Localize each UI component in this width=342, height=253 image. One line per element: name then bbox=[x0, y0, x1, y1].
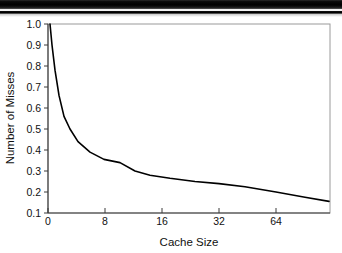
y-axis-ticks: 0.10.20.30.40.50.60.70.80.91.0 bbox=[26, 18, 48, 219]
line-chart: 0.10.20.30.40.50.60.70.80.91.0 08163264 … bbox=[0, 0, 342, 253]
y-axis-title: Number of Misses bbox=[4, 71, 16, 164]
y-tick-label: 0.9 bbox=[26, 39, 41, 51]
x-axis-title: Cache Size bbox=[160, 236, 219, 248]
plot-border bbox=[48, 24, 330, 213]
y-tick-label: 0.3 bbox=[26, 165, 41, 177]
y-tick-label: 1.0 bbox=[26, 18, 41, 30]
y-tick-label: 0.7 bbox=[26, 81, 41, 93]
data-series-miss-ratio bbox=[50, 24, 329, 201]
x-tick-label: 64 bbox=[270, 215, 282, 227]
plot-frame bbox=[48, 24, 330, 213]
x-tick-label: 8 bbox=[102, 215, 108, 227]
y-tick-label: 0.4 bbox=[26, 144, 41, 156]
y-tick-label: 0.8 bbox=[26, 60, 41, 72]
y-tick-label: 0.1 bbox=[26, 207, 41, 219]
x-tick-label: 0 bbox=[45, 215, 51, 227]
y-tick-label: 0.2 bbox=[26, 186, 41, 198]
y-tick-label: 0.5 bbox=[26, 123, 41, 135]
x-axis-ticks: 08163264 bbox=[45, 208, 282, 227]
x-tick-label: 32 bbox=[213, 215, 225, 227]
figure-canvas: 0.10.20.30.40.50.60.70.80.91.0 08163264 … bbox=[0, 0, 342, 253]
x-tick-label: 16 bbox=[156, 215, 168, 227]
y-tick-label: 0.6 bbox=[26, 102, 41, 114]
